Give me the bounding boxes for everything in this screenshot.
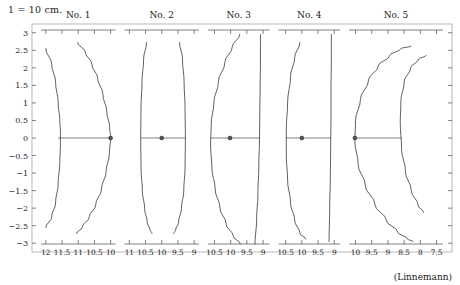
curve-inner-arc — [400, 56, 426, 213]
x-tick-label: 11.5 — [54, 248, 70, 257]
x-tick-label: 8 — [418, 248, 423, 257]
y-tick-label: −1.5 — [0, 186, 28, 195]
curve-left-arc — [211, 35, 241, 244]
x-tick-label: 11 — [125, 248, 134, 257]
origin-marker — [353, 136, 357, 140]
x-tick-label: 10.5 — [137, 248, 153, 257]
origin-marker — [160, 136, 164, 140]
x-tick-label: 9.5 — [241, 248, 253, 257]
x-tick-label: 10 — [226, 248, 235, 257]
y-tick-label: −0.5 — [0, 151, 28, 160]
x-tick-label: 10.5 — [206, 248, 222, 257]
x-tick-label: 10 — [297, 248, 306, 257]
curve-right-line — [255, 35, 260, 244]
x-tick-label: 10 — [351, 248, 360, 257]
y-tick-label: −3 — [0, 239, 28, 248]
y-tick-label: 0.5 — [0, 116, 28, 125]
figure-root: 1 = 10 cm. (Linnemann) 32.521.510.50−0.5… — [0, 0, 460, 285]
y-tick-label: 3 — [0, 28, 28, 37]
x-tick-label: 10.5 — [277, 248, 293, 257]
plot-svg — [0, 0, 460, 285]
x-tick-label: 10 — [157, 248, 166, 257]
x-tick-label: 9 — [261, 248, 266, 257]
x-tick-label: 9.5 — [312, 248, 324, 257]
x-tick-label: 11 — [74, 248, 83, 257]
panel-title-1: No. 1 — [66, 10, 91, 20]
origin-marker — [300, 136, 304, 140]
panel-title-3: No. 3 — [226, 10, 251, 20]
x-tick-label: 8.5 — [398, 248, 410, 257]
y-tick-label: −2.5 — [0, 221, 28, 230]
x-tick-label: 7.5 — [431, 248, 443, 257]
x-tick-label: 9 — [386, 248, 391, 257]
y-tick-label: 2.5 — [0, 46, 28, 55]
panel-title-4: No. 4 — [297, 10, 322, 20]
y-tick-label: 0 — [0, 134, 28, 143]
y-tick-label: 2 — [0, 63, 28, 72]
x-tick-label: 9.5 — [172, 248, 184, 257]
x-tick-label: 9 — [192, 248, 197, 257]
y-tick-label: 1 — [0, 98, 28, 107]
panel-title-2: No. 2 — [149, 10, 174, 20]
x-tick-label: 9 — [332, 248, 337, 257]
x-tick-label: 9.5 — [366, 248, 378, 257]
x-tick-label: 12 — [41, 248, 50, 257]
y-tick-label: −1 — [0, 169, 28, 178]
x-tick-label: 10 — [106, 248, 115, 257]
y-tick-label: −2 — [0, 204, 28, 213]
x-tick-label: 10.5 — [86, 248, 102, 257]
origin-marker — [109, 136, 113, 140]
curve-left-arc — [286, 43, 305, 239]
y-tick-label: 1.5 — [0, 81, 28, 90]
curve-outer-arc — [355, 46, 413, 241]
origin-marker — [228, 136, 232, 140]
panel-title-5: No. 5 — [384, 10, 409, 20]
